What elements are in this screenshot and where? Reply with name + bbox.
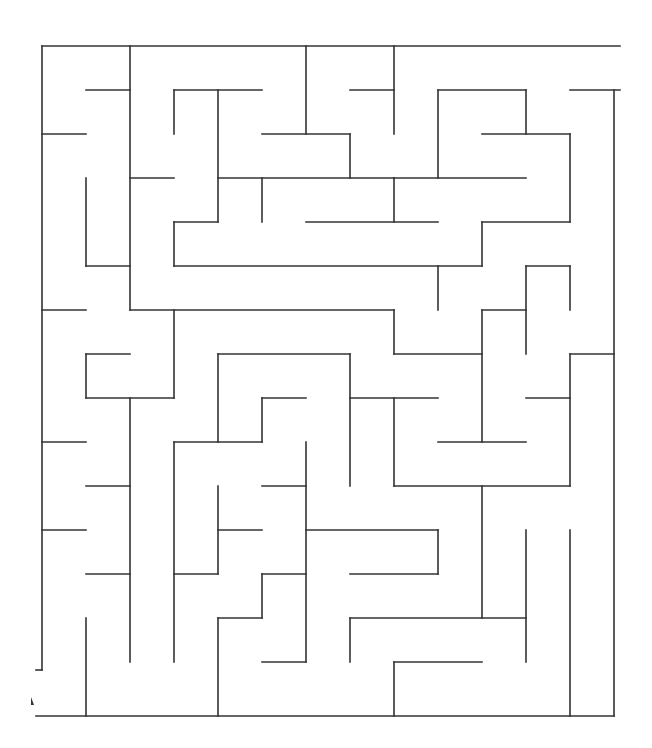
maze-board <box>0 0 652 748</box>
